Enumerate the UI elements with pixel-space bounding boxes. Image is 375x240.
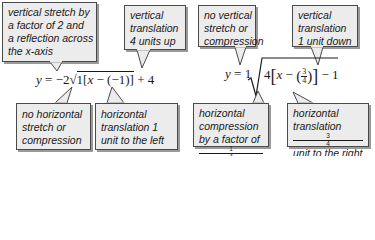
callout-line: no horizontal (22, 108, 85, 121)
callout-horizontal-translation-right: horizontal translation 34 unit to the ri… (287, 103, 369, 147)
callout-fraction: 34 (293, 133, 363, 147)
fraction-den: 4 (199, 154, 263, 157)
callout-horizontal-compression: horizontal compression by a factor of 14 (193, 103, 269, 147)
callout-line: unit to the left (101, 134, 172, 147)
callout-no-horizontal-stretch: no horizontal stretch or compression (16, 103, 91, 150)
callout-line: stretch or (22, 121, 85, 134)
callout-line: horizontal (101, 108, 172, 121)
callout-line: horizontal (293, 107, 363, 120)
callout-line: compression (199, 120, 263, 133)
callout-line: compression (22, 134, 85, 147)
callout-line: by a factor of 14 (199, 133, 263, 156)
callout-line: horizontal (199, 107, 263, 120)
callout-line: 34 unit to the right (293, 133, 363, 156)
callout-line: translation 1 (101, 121, 172, 134)
callout-fraction: 14 (199, 146, 263, 156)
callout-horizontal-translation-left: horizontal translation 1 unit to the lef… (95, 103, 178, 150)
callout-text: unit to the right (293, 147, 363, 156)
